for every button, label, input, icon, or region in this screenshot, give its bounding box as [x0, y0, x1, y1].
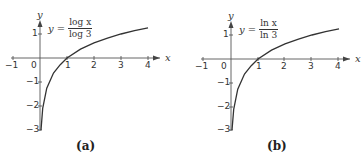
y-axis-label: y [37, 10, 43, 20]
equation-lhs: y = [239, 24, 256, 35]
equation-numerator: ln x [259, 19, 278, 30]
x-axis-label: x [355, 54, 361, 64]
y-tick-label: −3 [26, 125, 39, 134]
caption: (b) [267, 139, 287, 153]
y-tick-label: 1 [223, 30, 229, 39]
equation-fraction: log x log 3 [68, 18, 92, 39]
equation-fraction: ln x ln 3 [259, 19, 278, 40]
equation-lhs: y = [48, 23, 65, 34]
x-tick-label: 1 [256, 62, 262, 71]
x-tick-label: 2 [281, 62, 287, 71]
x-tick-label: 0 [31, 61, 37, 70]
log-curve-a [41, 28, 148, 130]
y-tick-label: 1 [32, 29, 38, 38]
x-tick-label: 3 [308, 62, 314, 71]
equation-numerator: log x [68, 18, 92, 29]
x-tick-label: 3 [118, 61, 124, 70]
y-axis-arrow-icon [38, 20, 43, 27]
caption: (a) [76, 139, 95, 153]
equation-denominator: log 3 [69, 29, 92, 39]
y-tick-label: −1 [26, 77, 39, 86]
x-tick-label: 0 [221, 62, 227, 71]
x-axis-arrow-icon [153, 56, 160, 61]
chart-panel-a: y x −1 0 1 2 3 4 1 −1 −2 −3 y = log x lo… [0, 0, 182, 160]
equation-label: y = log x log 3 [48, 18, 92, 39]
x-axis-label: x [165, 53, 171, 63]
x-tick-label: −1 [5, 61, 18, 70]
x-axis-arrow-icon [343, 57, 350, 62]
chart-panel-b: y x −1 0 1 2 3 4 1 −1 −2 −3 y = ln x ln … [182, 0, 364, 160]
ln-curve-b [232, 29, 339, 130]
x-tick-label: −1 [195, 62, 208, 71]
x-tick-label: 4 [145, 61, 151, 70]
x-tick-label: 2 [91, 61, 97, 70]
x-tick-label: 1 [65, 61, 71, 70]
y-axis-label: y [228, 11, 234, 21]
x-tick-label: 4 [335, 62, 341, 71]
equation-denominator: ln 3 [260, 30, 277, 40]
y-tick-label: −3 [217, 125, 230, 134]
y-tick-label: −1 [217, 78, 230, 87]
y-tick-label: −2 [217, 102, 230, 111]
y-tick-label: −2 [26, 101, 39, 110]
y-axis-arrow-icon [229, 21, 234, 28]
equation-label: y = ln x ln 3 [239, 19, 278, 40]
